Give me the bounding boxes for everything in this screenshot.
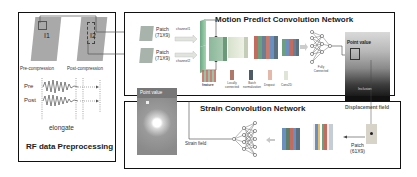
patch-61x9-label: Patch(61X9) bbox=[350, 142, 365, 154]
strain-conv-block-2 bbox=[313, 124, 333, 150]
patch-61x9-size: (61X9) bbox=[350, 148, 365, 154]
patch-61x9-marker bbox=[370, 132, 373, 135]
strain-conv-block-1 bbox=[282, 128, 300, 150]
